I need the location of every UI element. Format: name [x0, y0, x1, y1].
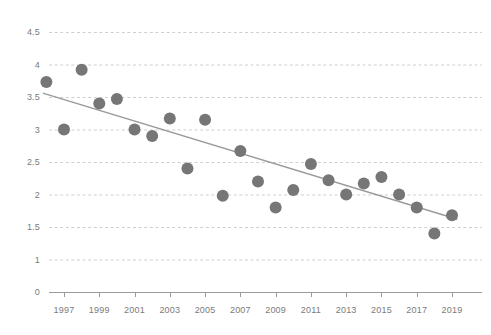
x-axis-tick-label: 2007: [230, 306, 251, 315]
data-point: [340, 189, 352, 201]
x-axis-tick-label: 2019: [442, 306, 463, 315]
chart-canvas: [0, 0, 491, 335]
x-axis-tick-label: 2013: [336, 306, 357, 315]
trendline: [43, 93, 457, 219]
x-axis-tick-label: 2011: [301, 306, 321, 315]
x-axis-tick-label: 1997: [54, 306, 75, 315]
gridlines-group: [49, 33, 482, 261]
data-point: [164, 112, 176, 124]
data-point: [323, 174, 335, 186]
data-point: [146, 130, 158, 142]
y-axis-tick-label: 2: [12, 190, 40, 199]
y-axis-tick-label: 4: [12, 60, 40, 69]
data-point: [234, 145, 246, 157]
data-point: [270, 202, 282, 214]
x-axis-tick-label: 2003: [159, 306, 180, 315]
y-axis-tick-label: 1: [12, 255, 40, 264]
data-point: [181, 163, 193, 175]
y-axis-tick-label: 1.5: [12, 223, 40, 232]
y-axis-tick-label: 4.5: [12, 28, 40, 37]
data-point: [358, 177, 370, 189]
x-axis-tick-label: 1999: [89, 306, 110, 315]
y-axis-tick-label: 3: [12, 125, 40, 134]
data-point: [40, 76, 52, 88]
data-point: [199, 114, 211, 126]
data-point: [411, 202, 423, 214]
trendline-group: [43, 93, 457, 219]
y-axis-tick-label: 3.5: [12, 93, 40, 102]
data-point: [93, 98, 105, 110]
data-point: [111, 93, 123, 105]
data-point: [58, 124, 70, 136]
x-axis-tick-label: 2017: [406, 306, 427, 315]
data-point: [428, 228, 440, 240]
data-point: [76, 64, 88, 76]
data-point: [375, 171, 387, 183]
data-point: [393, 189, 405, 201]
data-point: [217, 190, 229, 202]
data-point: [305, 158, 317, 170]
data-point: [287, 184, 299, 196]
data-point: [252, 176, 264, 188]
scatter-chart: 4.543.532.521.510 1997199920012003200520…: [0, 0, 491, 335]
x-axis-tick-label: 2001: [124, 306, 145, 315]
x-axis-tick-label: 2009: [265, 306, 286, 315]
y-axis-tick-label: 0: [12, 288, 40, 297]
plot-area: 4.543.532.521.510 1997199920012003200520…: [0, 0, 491, 335]
data-points-group: [40, 64, 458, 240]
data-point: [129, 124, 141, 136]
data-point: [446, 209, 458, 221]
x-axis-tick-label: 2005: [195, 306, 216, 315]
x-axis-tick-label: 2015: [371, 306, 392, 315]
y-axis-tick-label: 2.5: [12, 158, 40, 167]
